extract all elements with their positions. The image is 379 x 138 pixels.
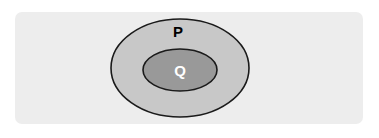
set-label-p: P <box>173 23 183 40</box>
euler-diagram: P Q <box>0 0 379 138</box>
diagram-canvas: P Q <box>0 0 379 138</box>
set-label-q: Q <box>174 62 186 79</box>
